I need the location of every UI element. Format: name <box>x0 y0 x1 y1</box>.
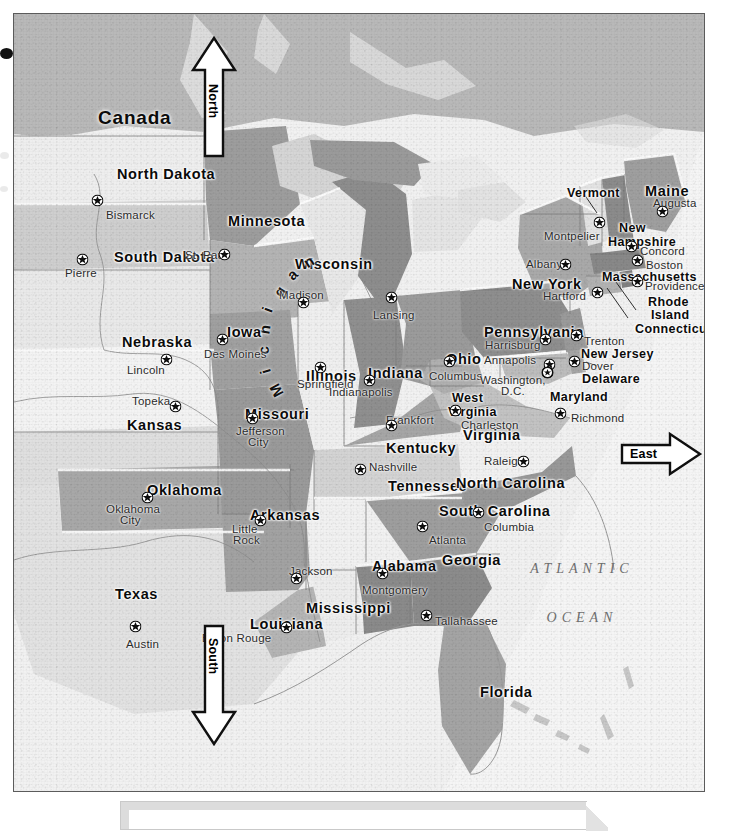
state-label-indiana-10: Indiana <box>368 366 423 381</box>
compass-arrow-south-label: South <box>206 638 220 674</box>
city-label-lansing-4: Lansing <box>373 310 415 322</box>
state-label-florida-21: Florida <box>480 685 533 700</box>
city-label-d-c--32: D.C. <box>501 386 525 398</box>
city-label-montgomery-20: Montgomery <box>362 585 428 597</box>
capital-star-topeka <box>170 401 181 412</box>
city-label-columbia-18: Columbia <box>484 522 534 534</box>
state-label-michigan-char: i <box>259 305 276 315</box>
capital-star-richmond <box>555 408 566 419</box>
capital-star-raleigh <box>518 456 529 467</box>
state-label-maryland-27: Maryland <box>550 391 608 404</box>
capital-star-austin <box>130 621 141 632</box>
city-label-nashville-16: Nashville <box>369 462 417 474</box>
city-label-des-moines-5: Des Moines <box>204 349 267 361</box>
state-label-west-25: West <box>452 392 483 405</box>
capital-star-charleston <box>450 405 461 416</box>
capital-star-pierre <box>77 254 88 265</box>
capital-star-providence <box>632 276 643 287</box>
capital-star-harrisburg <box>540 334 551 345</box>
city-label-dover-33: Dover <box>582 361 614 373</box>
edge-smudge-artifact <box>0 152 9 159</box>
edge-smudge-artifact-2 <box>0 186 8 192</box>
capital-star-jackson <box>291 573 302 584</box>
city-label-austin-28: Austin <box>126 639 159 651</box>
state-label-pennsylvania-30: Pennsylvania <box>484 325 584 340</box>
state-label-rhode-33: Rhode <box>648 296 689 309</box>
state-label-michigan-char: i <box>256 367 273 376</box>
national-capital-marker <box>542 367 553 378</box>
state-label-mississippi-18: Mississippi <box>306 601 391 616</box>
state-label-georgia-20: Georgia <box>442 553 501 568</box>
capital-star-columbia <box>473 507 484 518</box>
capital-star-bismarck <box>92 195 103 206</box>
capital-star-st-paul <box>219 249 230 260</box>
caption-panel[interactable] <box>120 801 587 830</box>
state-label-oklahoma-14: Oklahoma <box>147 483 222 498</box>
state-label-new-36: New <box>619 222 646 235</box>
city-label-city-10: City <box>248 437 269 449</box>
capital-star-jefferson <box>247 413 258 424</box>
city-label-albany-40: Albany <box>526 259 562 271</box>
city-label-providence-36: Providence <box>645 281 705 293</box>
city-label-hartford-35: Hartford <box>543 291 586 303</box>
caption-panel-corner-fold <box>586 802 608 831</box>
city-label-rock-25: Rock <box>233 535 260 547</box>
binder-hole-artifact-top <box>0 48 13 59</box>
city-label-columbus-12: Columbus <box>429 371 482 383</box>
city-label-boston-37: Boston <box>646 260 683 272</box>
capital-star-des-moines <box>217 334 228 345</box>
map-label-layer: CanadaATLANTICOCEANNorth DakotaSouth Dak… <box>14 14 704 791</box>
city-label-richmond-15: Richmond <box>571 413 624 425</box>
state-label-michigan-char: M <box>266 381 287 400</box>
capital-star-atlanta <box>417 521 428 532</box>
state-label-delaware-28: Delaware <box>582 373 640 386</box>
city-label-tallahassee-21: Tallahassee <box>435 616 498 628</box>
city-label-pierre-1: Pierre <box>65 268 97 280</box>
state-label-north-carolina-23: North Carolina <box>456 476 565 491</box>
capital-star-lincoln <box>161 354 172 365</box>
city-label-trenton-34: Trenton <box>584 336 625 348</box>
capital-star-springfield <box>315 362 326 373</box>
city-label-lincoln-6: Lincoln <box>127 365 165 377</box>
compass-arrow-north-label: North <box>206 84 220 118</box>
ocean-label-line-2: OCEAN <box>547 611 618 625</box>
city-label-city-27: City <box>120 515 141 527</box>
state-label-south-carolina-22: South Carolina <box>439 504 551 519</box>
capital-star-frankfort <box>386 420 397 431</box>
ocean-label-line-1: ATLANTIC <box>530 562 633 576</box>
state-label-connecticut-32: Connecticut <box>635 323 705 336</box>
capital-star-columbus <box>444 356 455 367</box>
state-label-island-34: Island <box>651 309 690 322</box>
compass-arrow-east: East <box>620 432 702 476</box>
city-label-concord-38: Concord <box>640 246 685 258</box>
capital-star-albany <box>560 259 571 270</box>
capital-star-baton-rouge <box>281 622 292 633</box>
city-label-montpelier-41: Montpelier <box>544 231 600 243</box>
country-label-canada: Canada <box>98 108 171 127</box>
city-label-indianapolis-11: Indianapolis <box>329 387 393 399</box>
capital-star-madison <box>298 297 309 308</box>
capital-star-nashville <box>355 464 366 475</box>
capital-star-oklahoma <box>142 492 153 503</box>
capital-star-little <box>255 515 266 526</box>
capital-star-lansing <box>386 292 397 303</box>
capital-star-concord <box>626 241 637 252</box>
capital-star-dover <box>569 356 580 367</box>
capital-star-hartford <box>592 287 603 298</box>
state-label-new-jersey-29: New Jersey <box>581 348 654 361</box>
compass-arrow-east-label: East <box>630 447 657 461</box>
state-label-north-dakota-0: North Dakota <box>117 167 215 182</box>
capital-star-montgomery <box>377 568 388 579</box>
city-label-harrisburg-29: Harrisburg <box>485 340 541 352</box>
state-label-kentucky-12: Kentucky <box>386 441 456 456</box>
city-label-atlanta-19: Atlanta <box>429 535 466 547</box>
capital-star-trenton <box>571 330 582 341</box>
compass-arrow-south: South <box>191 624 237 746</box>
caption-panel-top-bevel <box>121 802 586 810</box>
map-canvas[interactable]: CanadaATLANTICOCEANNorth DakotaSouth Dak… <box>13 13 705 792</box>
state-label-iowa-6: Iowa <box>227 325 262 340</box>
compass-arrow-north: North <box>191 36 237 158</box>
city-label-charleston-14: Charleston <box>461 420 519 432</box>
capital-star-tallahassee <box>421 610 432 621</box>
